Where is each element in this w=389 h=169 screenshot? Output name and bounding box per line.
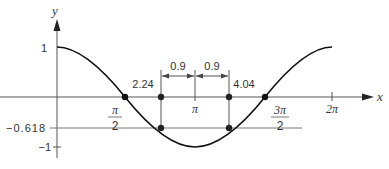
point-2.24-curve	[158, 125, 164, 131]
point-label-4.04: 4.04	[233, 78, 254, 90]
point-4.04-curve	[226, 125, 232, 131]
x-tick-pi: π	[192, 102, 199, 116]
x-axis-arrow-icon	[362, 94, 374, 101]
y-axis-arrow-icon	[54, 19, 61, 31]
arrowhead-icon	[196, 74, 203, 79]
x-tick-pi-half-num: π	[112, 103, 119, 117]
x-tick-pi-half-den: 2	[112, 119, 119, 133]
point-4.04-axis	[226, 94, 232, 100]
cosine-graph: x y 1 −1 −0.618 π 2 π 3π 2 2π 0.9 0.9 2.…	[0, 0, 389, 169]
x-axis-label: x	[376, 89, 383, 104]
y-tick-neg0618: −0.618	[6, 122, 46, 134]
x-tick-2pi: 2π	[326, 102, 339, 116]
point-3pi-half	[262, 94, 268, 100]
point-2.24-axis	[158, 94, 164, 100]
point-label-2.24: 2.24	[132, 78, 153, 90]
dist-label-left: 0.9	[170, 60, 185, 72]
y-tick-neg1: −1	[38, 141, 51, 153]
x-tick-3pi-half-num: 3π	[273, 103, 287, 117]
point-pi-half	[122, 94, 128, 100]
arrowhead-icon	[221, 74, 228, 79]
y-tick-1: 1	[41, 42, 47, 54]
x-tick-3pi-half-den: 2	[277, 119, 284, 133]
arrowhead-icon	[187, 74, 194, 79]
dist-label-right: 0.9	[204, 60, 219, 72]
arrowhead-icon	[162, 74, 169, 79]
y-axis-label: y	[50, 3, 58, 18]
